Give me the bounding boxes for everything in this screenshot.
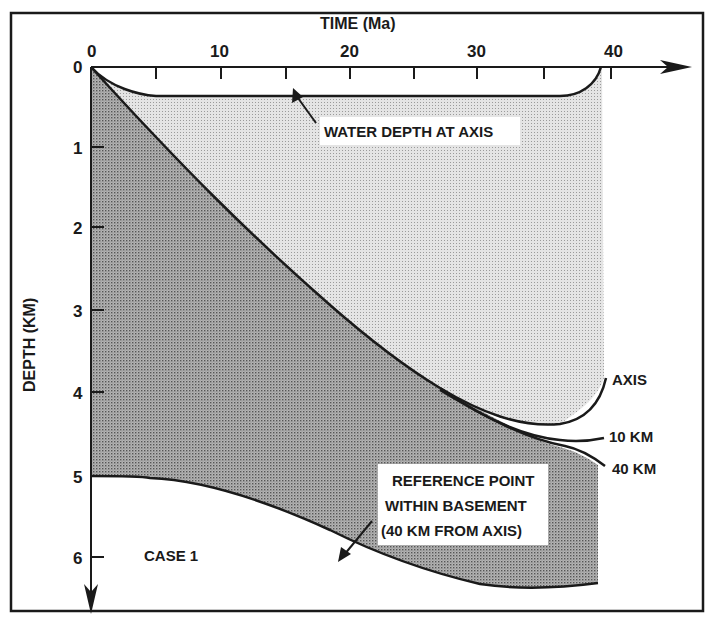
case-label: CASE 1: [144, 547, 198, 564]
y-tick-3: 3: [73, 302, 82, 321]
x-tick-20: 20: [340, 42, 359, 61]
x-axis-title: TIME (Ma): [320, 15, 396, 32]
x-tick-10: 10: [210, 42, 229, 61]
y-tick-0: 0: [73, 58, 82, 77]
x-tick-0: 0: [87, 42, 96, 61]
water-depth-line: [91, 67, 601, 96]
x-tick-40: 40: [604, 42, 623, 61]
y-axis-title: DEPTH (KM): [21, 298, 38, 392]
y-tick-6: 6: [73, 549, 82, 568]
x-axis-ticks: [156, 67, 611, 79]
y-tick-4: 4: [73, 384, 83, 403]
y-tick-1: 1: [73, 139, 82, 158]
axis-curve-label: AXIS: [612, 371, 647, 388]
reference-label-line2: WITHIN BASEMENT: [385, 497, 527, 514]
km10-curve-label: 10 KM: [609, 428, 653, 445]
km40-curve-label: 40 KM: [612, 460, 656, 477]
y-tick-5: 5: [73, 468, 82, 487]
reference-label-line3: (40 KM FROM AXIS): [381, 522, 522, 539]
reference-label-line1: REFERENCE POINT: [392, 472, 535, 489]
depth-time-chart: 0 10 20 30 40 TIME (Ma) 0 1 2 3 4 5 6 DE…: [0, 0, 715, 628]
y-tick-2: 2: [73, 219, 82, 238]
water-depth-label: WATER DEPTH AT AXIS: [324, 123, 493, 140]
x-tick-30: 30: [467, 42, 486, 61]
